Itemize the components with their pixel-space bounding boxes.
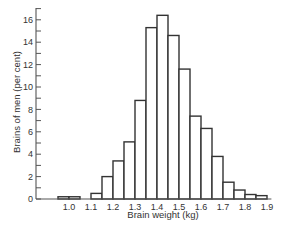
histogram-bar	[135, 100, 146, 199]
y-tick-label: 4	[28, 149, 33, 159]
histogram-bar	[212, 156, 223, 199]
y-tick-label: 6	[28, 127, 33, 137]
x-tick-label: 1.7	[217, 202, 230, 212]
y-tick-label: 12	[23, 60, 33, 70]
histogram-chart: 0246810121416 1.01.11.21.31.41.51.61.71.…	[0, 0, 287, 230]
x-axis-title: Brain weight (kg)	[127, 209, 198, 220]
histogram-bar	[245, 195, 256, 199]
x-tick-label: 1.8	[239, 202, 252, 212]
histogram-bar	[124, 142, 135, 199]
y-axis: 0246810121416	[23, 8, 41, 204]
histogram-bar	[146, 28, 157, 199]
histogram-bars	[58, 15, 267, 199]
histogram-bar	[190, 116, 201, 199]
histogram-bar	[179, 69, 190, 199]
y-tick-label: 0	[28, 194, 33, 204]
y-tick-label: 10	[23, 82, 33, 92]
histogram-bar	[157, 15, 168, 199]
y-tick-label: 8	[28, 105, 33, 115]
histogram-bar	[91, 193, 102, 199]
y-tick-label: 2	[28, 172, 33, 182]
x-tick-label: 1.0	[63, 202, 76, 212]
y-tick-label: 16	[23, 15, 33, 25]
x-tick-label: 1.2	[107, 202, 120, 212]
histogram-bar	[223, 182, 234, 199]
y-tick-label: 14	[23, 37, 33, 47]
histogram-bar	[102, 177, 113, 199]
histogram-bar	[168, 35, 179, 199]
histogram-bar	[201, 128, 212, 199]
x-tick-label: 1.1	[85, 202, 98, 212]
y-axis-title: Brains of men (per cent)	[11, 51, 22, 153]
histogram-bar	[234, 190, 245, 199]
x-tick-label: 1.9	[261, 202, 274, 212]
histogram-bar	[113, 161, 124, 199]
